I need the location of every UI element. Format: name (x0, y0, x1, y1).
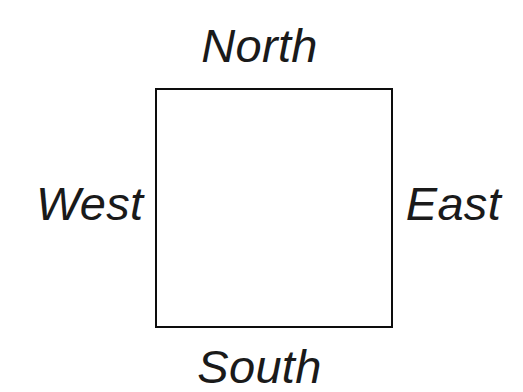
diagram-canvas: North West East South (0, 0, 523, 392)
direction-label-east: East (406, 180, 501, 227)
direction-label-east-text: East (406, 177, 501, 230)
direction-label-west-text: West (36, 177, 143, 230)
direction-label-north-text: North (201, 22, 317, 69)
direction-label-south: South (0, 343, 523, 390)
direction-label-south-text: South (197, 343, 321, 390)
compass-square-outline (155, 88, 393, 328)
direction-label-west: West (36, 180, 143, 227)
direction-label-north: North (0, 22, 523, 69)
